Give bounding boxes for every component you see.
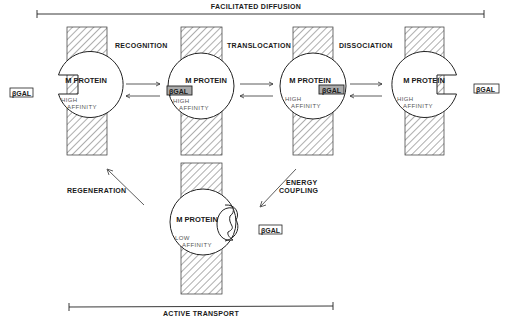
svg-text:HIGH: HIGH (173, 98, 190, 104)
active-transport-bracket: ACTIVE TRANSPORT (69, 302, 333, 317)
equilibrium-arrows-1 (126, 82, 160, 98)
facilitated-diffusion-bracket: FACILITATED DIFFUSION (37, 3, 484, 18)
svg-text:AFFINITY: AFFINITY (179, 105, 209, 111)
svg-text:HIGH: HIGH (285, 96, 302, 102)
free-bgal-bottom: βGAL (259, 225, 282, 235)
active-transport-label: ACTIVE TRANSPORT (163, 310, 239, 317)
svg-text:AFFINITY: AFFINITY (67, 104, 97, 110)
svg-text:AFFINITY: AFFINITY (182, 242, 212, 248)
m-protein-1: M PROTEIN HIGH AFFINITY (59, 52, 124, 118)
svg-text:AFFINITY: AFFINITY (291, 103, 321, 109)
svg-text:βGAL: βGAL (476, 86, 496, 94)
svg-text:AFFINITY: AFFINITY (403, 103, 433, 109)
m-protein-2: βGAL M PROTEIN HIGH AFFINITY (167, 53, 234, 119)
svg-text:βGAL: βGAL (322, 87, 342, 95)
step-dissociation-label: DISSOCIATION (339, 42, 393, 49)
m-protein-5: M PROTEIN LOW AFFINITY (170, 189, 238, 255)
equilibrium-arrows-3 (350, 82, 382, 98)
m-protein-4: M PROTEIN HIGH AFFINITY (392, 52, 457, 118)
step-energy-coupling-label-2: COUPLING (279, 187, 319, 194)
step-regeneration-label: REGENERATION (67, 187, 126, 194)
free-bgal-inside: βGAL (474, 84, 499, 94)
svg-text:HIGH: HIGH (397, 96, 414, 102)
svg-text:LOW: LOW (175, 235, 190, 241)
svg-text:M PROTEIN: M PROTEIN (185, 76, 227, 85)
svg-text:HIGH: HIGH (61, 97, 78, 103)
step-recognition-label: RECOGNITION (115, 42, 168, 49)
m-protein-3: βGAL M PROTEIN HIGH AFFINITY (280, 53, 346, 119)
svg-text:M PROTEIN: M PROTEIN (65, 76, 107, 85)
free-bgal-outside: βGAL (10, 88, 33, 98)
svg-text:βGAL: βGAL (261, 227, 281, 235)
facilitated-diffusion-label: FACILITATED DIFFUSION (211, 3, 301, 10)
svg-text:M PROTEIN: M PROTEIN (289, 76, 331, 85)
transport-diagram: FACILITATED DIFFUSION M PROTEIN HIGH AFF… (0, 0, 512, 327)
equilibrium-arrows-2 (240, 82, 273, 98)
svg-text:βGAL: βGAL (12, 90, 32, 98)
step-translocation-label: TRANSLOCATION (227, 42, 291, 49)
step-energy-coupling-label-1: ENERGY (286, 179, 317, 186)
svg-text:M PROTEIN: M PROTEIN (176, 215, 218, 224)
svg-text:M PROTEIN: M PROTEIN (403, 76, 445, 85)
svg-text:βGAL: βGAL (169, 88, 189, 96)
